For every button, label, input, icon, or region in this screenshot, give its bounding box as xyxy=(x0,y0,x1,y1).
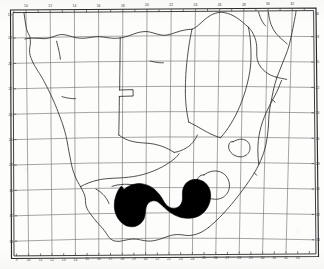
tick-label: 33 xyxy=(296,256,300,260)
tick-label: 26 xyxy=(9,138,13,142)
tick-label: 17 xyxy=(109,257,113,261)
tick-label: 20 xyxy=(145,3,149,7)
tick-label: 28 xyxy=(9,163,13,167)
tick-label: 9 xyxy=(16,258,18,262)
tick-label: 28 xyxy=(316,162,320,166)
tick-label: 10 xyxy=(27,258,31,262)
tick-label: 25 xyxy=(202,256,206,260)
tick-label: 30 xyxy=(261,256,265,260)
tick-label: 12 xyxy=(48,4,52,8)
tick-label: 18 xyxy=(120,257,124,261)
tick-label: 11 xyxy=(39,258,43,262)
tick-label: 15 xyxy=(85,257,89,261)
tick-label: 24 xyxy=(194,3,198,7)
tick-label: 19 xyxy=(132,257,136,261)
tick-label: 18 xyxy=(121,4,125,8)
tick-label: 23 xyxy=(179,257,183,261)
tick-label: 27 xyxy=(226,256,230,260)
tick-label: 24 xyxy=(191,257,195,261)
tick-label: 18 xyxy=(315,35,319,39)
tick-label: 34 xyxy=(10,240,14,244)
tick-label: 22 xyxy=(8,87,12,91)
tick-label: 32 xyxy=(9,214,13,218)
tick-label: 26 xyxy=(214,256,218,260)
tick-label: 32 xyxy=(290,2,294,6)
tick-label: 16 xyxy=(97,4,101,8)
distribution-map-figure: 10 12 14 16 18 20 22 24 26 28 30 32 9 10… xyxy=(0,0,324,269)
tick-label: 18 xyxy=(8,36,12,40)
tick-label: 34 xyxy=(316,238,320,242)
tick-label: 16 xyxy=(8,13,12,17)
tick-label: 12 xyxy=(50,258,54,262)
paper-background xyxy=(0,0,324,269)
tick-label: 30 xyxy=(316,187,320,191)
tick-label: 30 xyxy=(266,2,270,6)
tick-label: 31 xyxy=(272,256,276,260)
tick-label: 24 xyxy=(9,113,13,117)
tick-label: 13 xyxy=(62,258,66,262)
tick-label: 20 xyxy=(8,62,12,66)
tick-label: 22 xyxy=(167,257,171,261)
tick-label: 26 xyxy=(316,137,320,141)
tick-label: 26 xyxy=(218,3,222,7)
tick-label: 10 xyxy=(24,4,28,8)
tick-label: 30 xyxy=(9,189,13,193)
tick-label: 22 xyxy=(169,3,173,7)
tick-label: 28 xyxy=(242,3,246,7)
tick-label: 22 xyxy=(316,86,320,90)
tick-label: 20 xyxy=(144,257,148,261)
tick-label: 24 xyxy=(316,111,320,115)
tick-label: 14 xyxy=(73,4,77,8)
tick-label: 16 xyxy=(315,12,319,16)
tick-label: 28 xyxy=(237,256,241,260)
tick-label: 16 xyxy=(97,257,101,261)
tick-label: 32 xyxy=(284,256,288,260)
tick-label: 21 xyxy=(155,257,159,261)
tick-label: 20 xyxy=(315,60,319,64)
tick-label: 29 xyxy=(249,256,253,260)
tick-label: 14 xyxy=(74,258,78,262)
tick-label: 32 xyxy=(316,213,320,217)
map-canvas: 10 12 14 16 18 20 22 24 26 28 30 32 9 10… xyxy=(0,0,324,269)
